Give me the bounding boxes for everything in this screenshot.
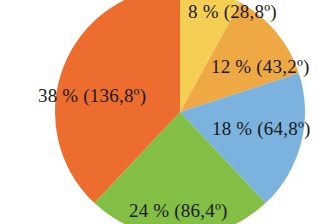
pie-label-slice-orange: 38 % (136,8º) [38, 86, 146, 105]
pie-chart-figure: 8 % (28,8º) 12 % (43,2º) 18 % (64,8º) 24… [0, 0, 328, 224]
pie-label-slice-green: 24 % (86,4º) [129, 201, 228, 220]
pie-label-slice-yellow: 8 % (28,8º) [188, 2, 277, 21]
pie-slices [55, 0, 305, 224]
pie-chart-graphic [0, 0, 328, 224]
pie-label-slice-amber: 12 % (43,2º) [211, 57, 310, 76]
pie-label-slice-blue: 18 % (64,8º) [212, 119, 311, 138]
